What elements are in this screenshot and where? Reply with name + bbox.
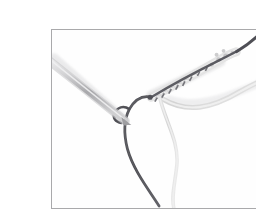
photo-canvas: [52, 30, 256, 208]
thread-knot-point: [148, 95, 153, 100]
photo-frame: [51, 29, 256, 209]
crochet-technique-photo: Close-up photograph of a crochet hook wi…: [40, 16, 256, 213]
